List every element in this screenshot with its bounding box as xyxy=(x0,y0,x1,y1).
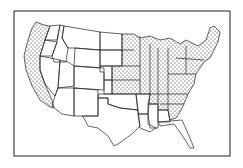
us-map xyxy=(0,0,243,168)
